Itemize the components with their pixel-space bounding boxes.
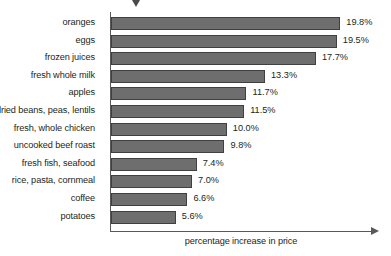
bar [111, 70, 265, 83]
bar-row: uncooked beef roast9.8% [0, 140, 391, 153]
bar [111, 87, 246, 100]
bar-row: coffee6.6% [0, 193, 391, 206]
category-label: fresh whole milk [0, 69, 95, 82]
bar [111, 175, 192, 188]
bar-row: oranges19.8% [0, 17, 391, 30]
bar-value-label: 17.7% [322, 51, 348, 64]
category-label: apples [0, 86, 95, 99]
bar-value-label: 13.3% [271, 69, 297, 82]
x-axis-title: percentage increase in price [110, 236, 372, 246]
value-axis-line [110, 231, 372, 232]
bar-row: fresh, whole chicken10.0% [0, 123, 391, 136]
bar-row: fresh fish, seafood7.4% [0, 158, 391, 171]
bar [111, 140, 224, 153]
bar-value-label: 10.0% [233, 122, 259, 135]
category-label: rice, pasta, cornmeal [0, 174, 95, 187]
bar-row: frozen juices17.7% [0, 52, 391, 65]
down-triangle-marker-icon [132, 0, 140, 7]
value-axis-arrow-icon [371, 227, 379, 235]
bar-row: potatoes5.6% [0, 211, 391, 224]
category-label: fresh, whole chicken [0, 122, 95, 135]
bar-value-label: 7.4% [203, 157, 224, 170]
category-label: oranges [0, 16, 95, 29]
plot-area: oranges19.8%eggs19.5%frozen juices17.7%f… [0, 12, 391, 234]
bar-value-label: 19.8% [346, 16, 372, 29]
bar-row: rice, pasta, cornmeal7.0% [0, 175, 391, 188]
bar-value-label: 9.8% [230, 139, 251, 152]
bar-row: eggs19.5% [0, 35, 391, 48]
bar-row: dried beans, peas, lentils11.5% [0, 105, 391, 118]
category-label: dried beans, peas, lentils [0, 104, 95, 117]
bar [111, 123, 227, 136]
bar [111, 158, 197, 171]
bar [111, 17, 340, 30]
category-label: uncooked beef roast [0, 139, 95, 152]
bar [111, 105, 244, 118]
bar [111, 52, 316, 65]
category-label: potatoes [0, 210, 95, 223]
bar-value-label: 19.5% [343, 34, 369, 47]
bar [111, 35, 337, 48]
category-label: eggs [0, 34, 95, 47]
bar-row: apples11.7% [0, 87, 391, 100]
category-label: coffee [0, 192, 95, 205]
bar-chart-figure: oranges19.8%eggs19.5%frozen juices17.7%f… [0, 0, 391, 256]
category-label: fresh fish, seafood [0, 157, 95, 170]
bar-value-label: 11.7% [252, 86, 277, 99]
category-label: frozen juices [0, 51, 95, 64]
bar-row: fresh whole milk13.3% [0, 70, 391, 83]
bar [111, 211, 176, 224]
bar-value-label: 5.6% [182, 210, 203, 223]
bar-value-label: 7.0% [198, 174, 219, 187]
bar [111, 193, 187, 206]
bar-value-label: 6.6% [193, 192, 214, 205]
bar-value-label: 11.5% [250, 104, 275, 117]
